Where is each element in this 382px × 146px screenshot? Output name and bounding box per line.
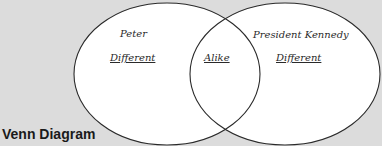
right-circle xyxy=(190,3,380,145)
diagram-title: Venn Diagram xyxy=(2,126,95,142)
overlap-region-label: Alike xyxy=(204,52,230,63)
left-region-label: Different xyxy=(110,52,155,63)
left-circle-name: Peter xyxy=(120,28,147,39)
venn-diagram xyxy=(0,0,382,146)
right-region-label: Different xyxy=(276,52,321,63)
right-circle-name: President Kennedy xyxy=(253,29,349,40)
